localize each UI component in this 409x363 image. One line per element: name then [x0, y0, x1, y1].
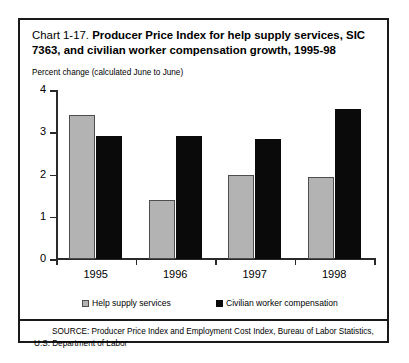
x-tick-1997	[215, 259, 217, 265]
bar-1998-series-1	[308, 177, 334, 259]
chart-title-line1: Producer Price Index for help supply ser…	[92, 29, 343, 41]
bar-1997-series-2	[255, 139, 281, 259]
bar-1995-series-2	[96, 136, 122, 259]
bar-1997-series-1	[228, 175, 254, 260]
y-tick-label-0: 0	[28, 252, 46, 264]
bar-1996-series-1	[149, 200, 175, 259]
bar-1996-series-2	[176, 136, 202, 259]
y-tick-label-4: 4	[28, 83, 46, 95]
x-tick-1998	[295, 259, 297, 265]
x-axis-label-1998: 1998	[294, 268, 374, 280]
legend-label-help-supply-services: Help supply services	[92, 298, 171, 308]
y-tick-label-1: 1	[28, 210, 46, 222]
legend-swatch-gray-icon	[82, 300, 89, 307]
source-note: SOURCE: Producer Price Index and Employm…	[34, 326, 374, 350]
x-axis-label-1996: 1996	[135, 268, 215, 280]
legend-item-civilian-worker-compensation: Civilian worker compensation	[216, 298, 338, 308]
bar-1995-series-1	[69, 115, 95, 259]
chart-number: Chart 1-17.	[32, 29, 89, 41]
x-tick-1996	[136, 259, 138, 265]
legend-swatch-black-icon	[216, 300, 223, 307]
y-tick-label-3: 3	[28, 125, 46, 137]
legend-item-help-supply-services: Help supply services	[82, 298, 171, 308]
plot-area	[56, 90, 374, 259]
x-tick-1995	[56, 259, 58, 265]
x-axis-label-1997: 1997	[215, 268, 295, 280]
y-tick-label-2: 2	[28, 168, 46, 180]
legend-label-civilian-worker-compensation: Civilian worker compensation	[226, 298, 338, 308]
x-tick-end	[374, 259, 376, 265]
chart-subtitle: Percent change (calculated June to June)	[32, 68, 183, 77]
bar-1998-series-2	[335, 109, 361, 259]
x-axis-label-1995: 1995	[56, 268, 136, 280]
chart-title: Chart 1-17. Producer Price Index for hel…	[32, 28, 378, 57]
source-divider	[20, 319, 387, 321]
chart-frame: Chart 1-17. Producer Price Index for hel…	[18, 18, 389, 343]
